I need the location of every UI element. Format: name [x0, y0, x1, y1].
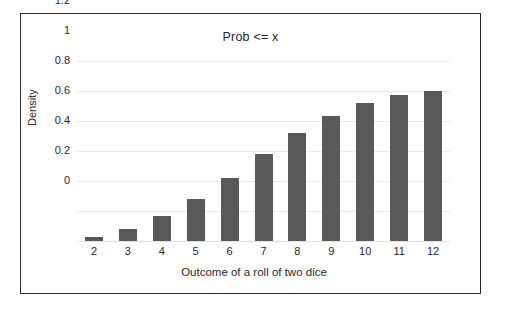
bar: [187, 199, 205, 241]
y-axis-tick-label: 0.4: [55, 114, 70, 126]
y-axis-tick-label: 1.2: [55, 0, 70, 6]
x-axis-tick-label: 5: [181, 245, 211, 257]
y-axis-title: Density: [26, 89, 38, 126]
gridline: [77, 61, 450, 62]
y-axis-tick-label: 1: [64, 24, 70, 36]
x-axis-tick-label: 9: [316, 245, 346, 257]
x-axis-tick-label: 8: [282, 245, 312, 257]
x-axis-tick-label: 3: [113, 245, 143, 257]
x-axis-tick-label: 4: [147, 245, 177, 257]
x-axis-tick-label: 10: [350, 245, 380, 257]
bar: [356, 103, 374, 241]
gridline: [77, 91, 450, 92]
x-axis-tick-label: 12: [418, 245, 448, 257]
x-axis-tick-label: 6: [215, 245, 245, 257]
y-axis-tick-label: 0.6: [55, 84, 70, 96]
x-axis-title: Outcome of a roll of two dice: [0, 266, 508, 278]
x-axis-tick-labels: 23456789101112: [77, 245, 450, 261]
y-axis-tick-labels: 00.20.40.60.811.2: [38, 0, 70, 311]
x-axis-tick-label: 2: [79, 245, 109, 257]
x-axis-tick-label: 11: [384, 245, 414, 257]
y-axis-tick-label: 0: [64, 174, 70, 186]
chart-title: Prob <= x: [21, 30, 480, 44]
bar: [255, 154, 273, 241]
bar: [85, 237, 103, 241]
bar: [424, 91, 442, 241]
x-axis-tick-label: 7: [249, 245, 279, 257]
bar: [322, 116, 340, 241]
bar: [119, 229, 137, 241]
bar: [288, 133, 306, 241]
y-axis-tick-label: 0.8: [55, 54, 70, 66]
y-axis-tick-label: 0.2: [55, 144, 70, 156]
bar: [221, 178, 239, 241]
gridline: [77, 241, 450, 242]
bar: [390, 95, 408, 241]
plot-area: [77, 61, 450, 241]
bar: [153, 216, 171, 241]
